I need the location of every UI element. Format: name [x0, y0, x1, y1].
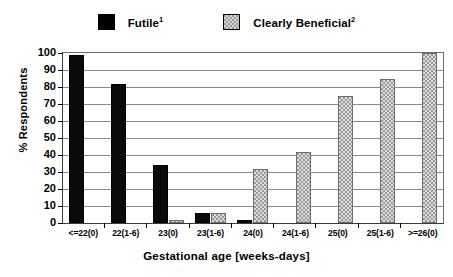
x-tick-label: 22(1-6)	[104, 228, 146, 238]
bar-group	[316, 53, 358, 223]
bar-clearly-beneficial	[380, 79, 395, 224]
y-tick-label: 60	[22, 115, 56, 126]
legend-footnote-clearly-beneficial: 2	[351, 15, 355, 24]
legend-item-futile: Futile1	[98, 14, 164, 30]
bar-clearly-beneficial	[296, 152, 311, 223]
x-tick-label: <=22(0)	[62, 228, 104, 238]
x-tick-label: 24(1-6)	[274, 228, 316, 238]
bar-group	[147, 53, 189, 223]
bar-group	[63, 53, 105, 223]
legend-text-clearly-beneficial: Clearly Beneficial	[253, 17, 351, 29]
bar-clearly-beneficial	[422, 53, 437, 223]
bar-group	[190, 53, 232, 223]
legend-item-clearly-beneficial: Clearly Beneficial2	[223, 14, 355, 30]
legend-text-futile: Futile	[128, 17, 159, 29]
bar-group	[401, 53, 443, 223]
legend-label-clearly-beneficial: Clearly Beneficial2	[253, 15, 355, 29]
legend-footnote-futile: 1	[159, 15, 163, 24]
bar-futile	[153, 165, 168, 223]
y-tick-label: 100	[22, 47, 56, 58]
y-tick-label: 80	[22, 81, 56, 92]
x-tick-label: 25(1-6)	[359, 228, 401, 238]
bar-group	[359, 53, 401, 223]
x-tick-label: 24(0)	[232, 228, 274, 238]
y-tick-label: 0	[22, 217, 56, 228]
bar-clearly-beneficial	[211, 213, 226, 223]
bar-clearly-beneficial	[169, 220, 184, 223]
bar-futile	[237, 220, 252, 223]
y-axis-tick-labels: 1009080706050403020100	[22, 45, 56, 229]
legend-swatch-clearly-beneficial	[223, 14, 240, 30]
y-tick-mark	[58, 223, 63, 224]
bar-group	[232, 53, 274, 223]
bar-group	[274, 53, 316, 223]
bar-futile	[111, 84, 126, 223]
legend-swatch-futile	[98, 14, 115, 30]
x-axis-tick-labels: <=22(0)22(1-6)23(0)23(1-6)24(0)24(1-6)25…	[62, 228, 444, 238]
x-tick-label: >=26(0)	[402, 228, 444, 238]
y-tick-label: 10	[22, 200, 56, 211]
y-tick-label: 70	[22, 98, 56, 109]
y-tick-label: 50	[22, 132, 56, 143]
x-tick-label: 25(0)	[317, 228, 359, 238]
x-tick-label: 23(1-6)	[189, 228, 231, 238]
chart-legend: Futile1 Clearly Beneficial2	[0, 10, 453, 34]
x-tick-label: 23(0)	[147, 228, 189, 238]
y-tick-label: 40	[22, 149, 56, 160]
plot-area	[62, 52, 444, 224]
y-tick-label: 20	[22, 183, 56, 194]
bar-futile	[69, 55, 84, 223]
bar-clearly-beneficial	[338, 96, 353, 224]
bar-chart-figure: Futile1 Clearly Beneficial2 % Respondent…	[0, 0, 453, 277]
bar-group	[105, 53, 147, 223]
y-tick-label: 30	[22, 166, 56, 177]
y-tick-label: 90	[22, 64, 56, 75]
bar-groups	[63, 53, 443, 223]
bar-clearly-beneficial	[253, 169, 268, 223]
legend-label-futile: Futile1	[128, 15, 164, 29]
x-axis-title: Gestational age [weeks-days]	[0, 250, 453, 262]
bar-futile	[195, 213, 210, 223]
